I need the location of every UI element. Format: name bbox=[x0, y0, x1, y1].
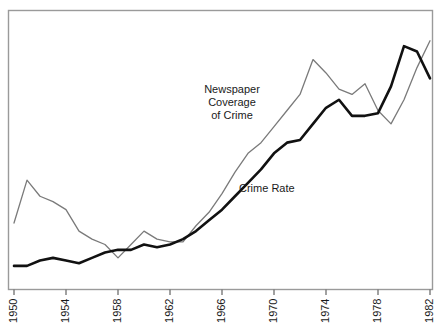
x-axis-tick-label: 1950 bbox=[7, 299, 19, 323]
x-axis-tick-label: 1982 bbox=[423, 299, 435, 323]
newspaper-label-line-1: Newspaper bbox=[204, 83, 260, 95]
newspaper-label-line-2: Coverage bbox=[208, 96, 256, 108]
crime-rate-label: Crime Rate bbox=[239, 182, 295, 194]
newspaper-coverage-label: Newspaper Coverage of Crime bbox=[204, 83, 260, 121]
x-axis-tick-label: 1978 bbox=[371, 299, 383, 323]
x-axis-tick-label: 1966 bbox=[215, 299, 227, 323]
x-axis-tick-label: 1954 bbox=[59, 299, 71, 323]
x-axis-tick-label: 1958 bbox=[111, 299, 123, 323]
line-chart: 195019541958196219661970197419781982 New… bbox=[0, 0, 443, 331]
x-axis-tick-label: 1970 bbox=[267, 299, 279, 323]
chart-background bbox=[0, 0, 443, 331]
x-axis-tick-label: 1974 bbox=[319, 299, 331, 323]
x-axis-tick-label: 1962 bbox=[163, 299, 175, 323]
newspaper-label-line-3: of Crime bbox=[211, 109, 253, 121]
chart-container: 195019541958196219661970197419781982 New… bbox=[0, 0, 443, 331]
